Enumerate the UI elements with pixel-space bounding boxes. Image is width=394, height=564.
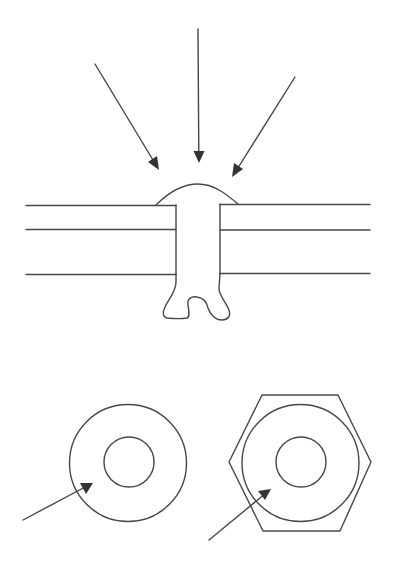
hex-nut-outer-circle bbox=[242, 405, 359, 522]
washer-pointer-arrow-icon bbox=[23, 483, 93, 520]
rivet-tail bbox=[163, 274, 229, 320]
hex-nut-icon bbox=[209, 395, 371, 540]
diagram-svg bbox=[0, 0, 394, 564]
center-force-arrow-icon bbox=[194, 29, 205, 163]
washer-inner-circle bbox=[104, 437, 154, 487]
hex-nut-pointer-arrow-icon bbox=[209, 489, 271, 540]
force-arrows bbox=[95, 29, 295, 177]
washer-outer-circle bbox=[70, 405, 187, 522]
rivet-head bbox=[156, 184, 238, 205]
left-force-arrow-icon bbox=[95, 64, 159, 170]
hex-nut-outline bbox=[229, 395, 371, 531]
round-washer-icon bbox=[23, 405, 187, 522]
hex-nut-inner-circle bbox=[276, 437, 326, 487]
right-force-arrow-icon bbox=[232, 77, 295, 177]
plate-lines bbox=[26, 205, 370, 275]
diagram-canvas: Rivet joint cross-section with compressi… bbox=[0, 0, 394, 564]
